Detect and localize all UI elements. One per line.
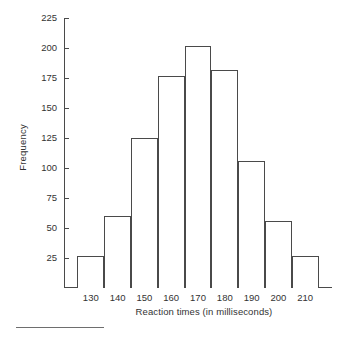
y-axis-tick-label: 25: [46, 252, 57, 263]
histogram-bar: [292, 256, 319, 288]
bottom-divider-rule: [16, 327, 104, 328]
y-axis-tick-label: 150: [41, 102, 57, 113]
histogram-bar: [131, 138, 158, 288]
y-axis-tick-label: 75: [46, 192, 57, 203]
y-axis-tick-label: 225: [41, 12, 57, 23]
x-axis-tick-label: 180: [211, 292, 238, 303]
x-axis-tick-label: 160: [158, 292, 185, 303]
histogram-bar: [238, 161, 265, 288]
x-axis-tick-label: 150: [131, 292, 158, 303]
y-axis-tick-label: 175: [41, 72, 57, 83]
y-axis-title: Frequency: [17, 88, 28, 208]
y-axis-tick-label: 200: [41, 42, 57, 53]
histogram-figure: Frequency 255075100125150175200225 13014…: [0, 0, 346, 337]
x-axis-tick-label: 140: [104, 292, 131, 303]
histogram-bar: [77, 256, 104, 288]
histogram-bar: [158, 76, 185, 288]
y-axis-tick-label: 100: [41, 162, 57, 173]
histogram-bar: [265, 221, 292, 288]
x-axis-tick-label: 210: [292, 292, 319, 303]
bar-series: [64, 18, 332, 288]
y-axis-tick-label: 125: [41, 132, 57, 143]
x-axis-tick-label: 190: [238, 292, 265, 303]
x-axis-tick-label: 170: [185, 292, 212, 303]
x-axis-tick-label: 130: [77, 292, 104, 303]
x-axis-tick-label: 200: [265, 292, 292, 303]
plot-area: 255075100125150175200225 130140150160170…: [64, 18, 332, 288]
x-axis-title: Reaction times (in milliseconds): [62, 306, 346, 317]
histogram-bar: [104, 216, 131, 288]
histogram-bar: [211, 70, 238, 288]
y-axis-tick-label: 50: [46, 222, 57, 233]
histogram-bar: [185, 46, 212, 288]
